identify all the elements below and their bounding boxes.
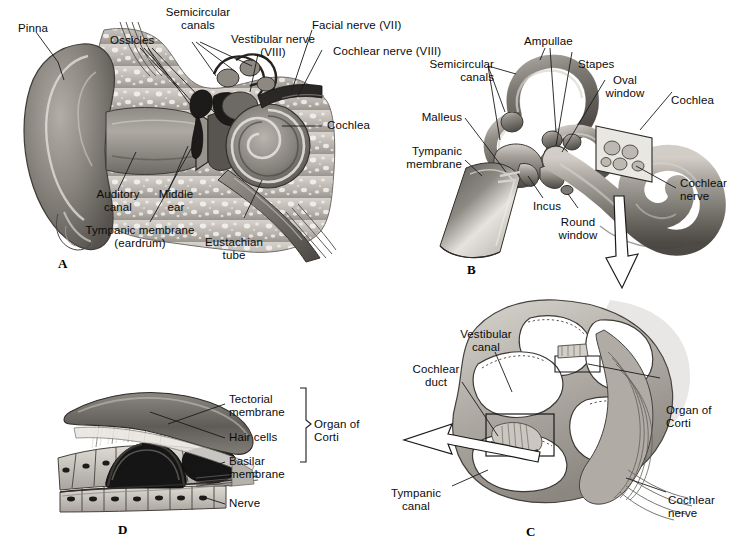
- label-basilar-membrane-line2: membrane: [229, 468, 285, 481]
- label-vestibular-canal-line1: Vestibular: [450, 328, 522, 341]
- label-tympanic-canal-line2: canal: [380, 500, 452, 513]
- label-tympanic-membrane-b-line1: Tympanic: [400, 145, 462, 158]
- label-middle-ear-line2: ear: [150, 201, 202, 214]
- label-cochlear-nerve-b-line1: Cochlear: [680, 177, 727, 190]
- label-cochlea-b: Cochlea: [671, 94, 714, 107]
- label-round-window-line1: Round: [551, 216, 605, 229]
- label-stapes: Stapes: [578, 58, 614, 71]
- label-incus: Incus: [533, 200, 561, 213]
- label-cochlear-duct-line2: duct: [400, 376, 472, 389]
- label-tectorial-membrane-line1: Tectorial: [229, 393, 273, 406]
- label-cochlear-nerve-a: Cochlear nerve (VIII): [333, 45, 441, 58]
- label-organ-of-corti-c-line1: Organ of: [666, 404, 712, 417]
- label-eustachian-tube-line1: Eustachian: [196, 236, 272, 249]
- label-vestibular-canal-line2: canal: [450, 341, 522, 354]
- label-basilar-membrane-line1: Basilar: [229, 455, 265, 468]
- label-vestibular-nerve-line1: Vestibular nerve: [218, 33, 328, 46]
- label-tympanic-canal-line1: Tympanic: [380, 487, 452, 500]
- label-pinna: Pinna: [18, 22, 48, 35]
- label-cochlear-nerve-b-line2: nerve: [680, 190, 709, 203]
- panel-d-artwork: [58, 393, 258, 512]
- label-semicircular-canals-b-line1: Semicircular: [424, 58, 494, 71]
- label-organ-of-corti-d-line2: Corti: [314, 431, 339, 444]
- label-semicircular-canals-a-line1: Semicircular: [152, 6, 244, 19]
- label-organ-of-corti-c-line2: Corti: [666, 417, 691, 430]
- panel-letter-a: A: [58, 256, 67, 272]
- label-facial-nerve: Facial nerve (VII): [312, 19, 401, 32]
- label-cochlea-a: Cochlea: [327, 119, 370, 132]
- label-middle-ear-line1: Middle: [150, 188, 202, 201]
- label-eustachian-tube-line2: tube: [196, 249, 272, 262]
- label-semicircular-canals-a-line2: canals: [152, 19, 244, 32]
- label-oval-window-line2: window: [597, 87, 653, 100]
- label-tectorial-membrane-line2: membrane: [229, 406, 285, 419]
- label-tympanic-membrane-b-line2: membrane: [400, 158, 462, 171]
- label-semicircular-canals-b-line2: canals: [424, 71, 494, 84]
- d-organ-of-corti-bracket: [300, 388, 311, 462]
- label-auditory-canal-line1: Auditory: [84, 188, 152, 201]
- label-cochlear-nerve-c-line2: nerve: [668, 507, 697, 520]
- b-tympanic-membrane: [440, 163, 520, 258]
- label-oval-window-line1: Oval: [597, 74, 653, 87]
- panel-letter-c: C: [526, 524, 535, 540]
- label-vestibular-nerve-line2: (VIII): [218, 46, 328, 59]
- label-nerve: Nerve: [229, 497, 260, 510]
- label-cochlear-duct-line1: Cochlear: [400, 363, 472, 376]
- label-organ-of-corti-d-line1: Organ of: [314, 418, 360, 431]
- label-hair-cells: Hair cells: [229, 431, 277, 444]
- label-cochlear-nerve-c-line1: Cochlear: [668, 494, 715, 507]
- ear-anatomy-figure: Pinna Ossicles Semicircular canals Vesti…: [0, 0, 740, 549]
- label-ossicles: Ossicles: [110, 34, 154, 47]
- label-round-window-line2: window: [551, 229, 605, 242]
- panel-letter-b: B: [467, 262, 476, 278]
- a-pinna: [24, 44, 115, 250]
- label-ampullae: Ampullae: [524, 35, 573, 48]
- label-malleus: Malleus: [414, 111, 462, 124]
- a-cochlea: [226, 104, 310, 188]
- b-round-window: [561, 186, 573, 195]
- label-auditory-canal-line2: canal: [84, 201, 152, 214]
- panel-letter-d: D: [118, 522, 127, 538]
